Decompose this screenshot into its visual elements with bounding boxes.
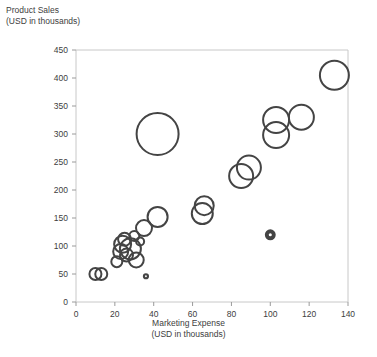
y-axis-title-line-1: Product Sales bbox=[6, 5, 80, 16]
x-axis-title-line-1: Marketing Expense bbox=[0, 318, 377, 329]
axis-frame bbox=[76, 50, 348, 302]
data-point-bubble bbox=[263, 107, 289, 133]
y-tick-label: 200 bbox=[54, 185, 68, 195]
data-point-bubble bbox=[320, 61, 349, 90]
tick-marks bbox=[72, 50, 348, 306]
data-point-bubble bbox=[148, 207, 168, 227]
data-point-bubble bbox=[267, 231, 274, 238]
y-tick-label: 450 bbox=[54, 45, 68, 55]
data-point-bubble bbox=[195, 196, 214, 215]
y-tick-label: 250 bbox=[54, 157, 68, 167]
y-axis-title-line-2: (USD in thousands) bbox=[6, 16, 80, 27]
y-tick-label: 0 bbox=[63, 297, 68, 307]
y-tick-label: 100 bbox=[54, 241, 68, 251]
y-axis-title: Product Sales (USD in thousands) bbox=[6, 5, 80, 27]
data-point-bubble bbox=[263, 122, 289, 148]
data-point-bubble bbox=[144, 274, 148, 278]
data-point-bubble bbox=[137, 113, 179, 155]
y-tick-label: 350 bbox=[54, 101, 68, 111]
y-tick-labels: 050100150200250300350400450 bbox=[54, 45, 68, 307]
y-tick-label: 300 bbox=[54, 129, 68, 139]
y-tick-label: 400 bbox=[54, 73, 68, 83]
bubble-chart: Product Sales (USD in thousands) Marketi… bbox=[0, 0, 377, 357]
data-point-bubble bbox=[289, 105, 314, 130]
plot-area: 050100150200250300350400450 020406080100… bbox=[0, 0, 377, 357]
y-tick-label: 50 bbox=[59, 269, 69, 279]
x-axis-title-line-2: (USD in thousands) bbox=[0, 329, 377, 340]
y-tick-label: 150 bbox=[54, 213, 68, 223]
x-axis-title: Marketing Expense (USD in thousands) bbox=[0, 318, 377, 340]
bubble-series bbox=[89, 61, 348, 280]
